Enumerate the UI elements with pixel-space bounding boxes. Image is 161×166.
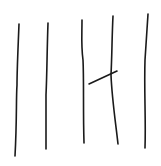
sketch-drawing	[0, 0, 161, 166]
vertical-line-1	[15, 24, 19, 156]
vertical-line-5	[145, 14, 148, 148]
vertical-line-2	[46, 23, 48, 149]
vertical-line-4	[111, 16, 118, 144]
vertical-line-3	[82, 20, 84, 143]
sketch-canvas	[0, 0, 161, 166]
diagonal-line	[89, 71, 117, 84]
